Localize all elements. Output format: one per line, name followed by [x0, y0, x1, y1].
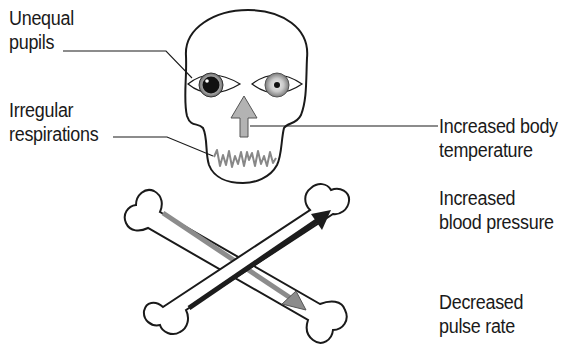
label-irregular-respirations: Irregular respirations [9, 98, 98, 146]
label-increased-blood-pressure: Increased blood pressure [439, 186, 554, 234]
label-decreased-pulse-rate: Decreased pulse rate [439, 290, 523, 338]
skull [185, 10, 307, 183]
label-unequal-pupils: Unequal pupils [9, 6, 74, 54]
leader-irregular-respirations [113, 137, 213, 156]
leader-unequal-pupils [63, 51, 192, 78]
label-increased-body-temperature: Increased body temperature [439, 114, 558, 162]
